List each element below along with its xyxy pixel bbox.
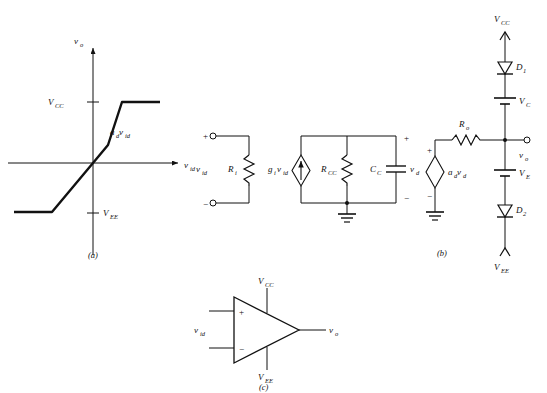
svg-text:D: D [515,205,523,215]
svg-text:C: C [526,101,531,108]
svg-text:EE: EE [109,213,118,220]
panel-c-vcc-label: V CC [258,276,274,288]
battery-vc: V C [494,96,531,140]
inverting-sign: − [239,344,244,354]
svg-text:D: D [515,62,523,72]
svg-text:C: C [377,169,382,176]
svg-text:CC: CC [501,19,510,26]
noninverting-sign: + [239,307,244,317]
svg-text:CC: CC [55,102,64,109]
vd-plus-sign: + [404,133,409,143]
svg-text:d: d [463,172,467,179]
svg-text:a: a [448,167,453,177]
svg-text:1: 1 [523,67,526,74]
svg-text:CC: CC [328,169,337,176]
battery-ve: V E [494,140,530,205]
svg-text:v: v [410,164,414,174]
svg-text:R: R [320,164,327,174]
shunt-resistor-rcc-label: R CC [320,164,337,176]
svg-text:R: R [458,119,465,129]
input-plus-sign: + [203,131,208,141]
current-source-label: g i v id [268,164,289,176]
mid-ground-node [345,201,349,205]
input-voltage-vid-label: v id [196,164,208,176]
input-minus-sign: − [203,199,208,209]
panel-a-vee-label: V EE [103,208,118,220]
svg-text:V: V [103,208,110,218]
svg-text:v: v [329,325,333,335]
svg-text:V: V [494,262,501,272]
clamp-vee-supply: V EE [494,248,510,274]
input-terminal-negative [210,200,216,206]
svg-text:o: o [525,155,529,162]
svg-text:v: v [74,36,78,46]
svg-text:v: v [184,160,188,170]
clamp-vcc-supply: V CC [494,14,510,60]
figure-container: v o v id V CC V EE a d v id (a) [0,0,547,393]
svg-text:E: E [525,173,530,180]
svg-text:d: d [416,169,420,176]
svg-text:o: o [466,124,470,131]
svg-text:v: v [277,164,281,174]
panel-a-vcc-label: V CC [48,97,64,109]
svg-text:V: V [258,372,265,382]
transfer-curve [14,102,160,212]
svg-text:id: id [200,330,206,337]
svg-text:v: v [196,164,200,174]
svg-text:id: id [125,132,131,139]
vd-minus-sign: − [404,193,409,203]
svg-text:i: i [235,169,237,176]
d1-triangle [498,62,512,74]
panel-a-y-axis-label: v o [74,36,84,48]
capacitor-voltage-vd-label: v d [410,164,420,176]
svg-text:V: V [48,97,55,107]
svg-text:id: id [190,165,196,172]
svg-text:o: o [335,330,339,337]
panel-a-slope-label: a d v id [110,127,131,139]
figure-svg: v o v id V CC V EE a d v id (a) [0,0,547,393]
input-terminal-positive [210,133,216,139]
vee-supply-arrow [500,248,510,256]
d2-triangle [498,205,512,217]
vcvs-plus-sign: + [427,145,432,155]
svg-text:o: o [80,41,84,48]
svg-text:V: V [519,168,526,178]
shunt-resistor-rcc [342,155,352,186]
panel-b-small-signal-model: + − R i v id g i v id [196,14,531,274]
svg-text:V: V [494,14,501,24]
svg-text:i: i [274,169,276,176]
panel-a-x-axis-label: v id [184,160,196,172]
vcvs-diamond [426,156,444,188]
svg-text:V: V [519,96,526,106]
panel-c-input-label: v id [194,325,206,337]
svg-text:V: V [258,276,265,286]
svg-text:v: v [457,167,461,177]
output-resistor-ro-label: R o [458,119,470,131]
panel-c-opamp-symbol: + − v id v o V CC V EE (c) [194,276,339,392]
output-resistor-ro [452,135,484,145]
diode-d1: D 1 [497,60,526,98]
svg-text:C: C [370,164,377,174]
svg-text:v: v [119,127,123,137]
input-resistor-ri-label: R i [227,164,237,176]
panel-c-output-label: v o [329,325,339,337]
input-resistor-ri [244,155,254,186]
svg-text:v: v [194,325,198,335]
diode-d2: D 2 [497,205,527,248]
panel-c-caption: (c) [259,382,269,392]
svg-text:2: 2 [523,210,527,217]
svg-text:id: id [283,169,289,176]
svg-text:g: g [268,164,273,174]
vcvs-minus-sign: − [427,191,432,201]
panel-a-transfer-characteristic: v o v id V CC V EE a d v id (a) [8,36,196,260]
svg-text:id: id [202,169,208,176]
output-terminal-vo [524,137,530,143]
svg-text:a: a [110,127,115,137]
capacitor-cc-label: C C [370,164,382,176]
svg-text:CC: CC [265,281,274,288]
panel-a-caption: (a) [88,250,98,260]
panel-b-caption: (b) [437,248,447,258]
svg-text:v: v [519,150,523,160]
svg-text:EE: EE [500,267,509,274]
vcvs-label: a d v d [448,167,467,179]
